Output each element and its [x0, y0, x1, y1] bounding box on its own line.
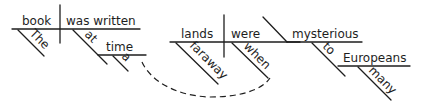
sentence-diagram: book was written The at time a lands wer…: [0, 0, 422, 108]
dashed-connector: [142, 62, 270, 97]
verb-word: was written: [66, 14, 136, 28]
diagram-canvas: book was written The at time a lands wer…: [0, 0, 422, 108]
predicate-adjective-slash: [263, 17, 287, 42]
predicate-adjective-word: mysterious: [292, 27, 359, 41]
verb-2-word: were: [231, 27, 260, 41]
preposition-1-word: at: [82, 27, 101, 46]
